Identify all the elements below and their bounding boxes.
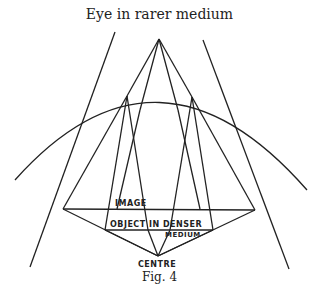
image-label: IMAGE <box>115 199 147 208</box>
medium-label: MEDIUM <box>165 231 201 239</box>
figure-caption: Fig. 4 <box>0 270 319 284</box>
object-label: OBJECT IN DENSER <box>110 220 202 229</box>
diagram: Eye in rarer medium <box>0 0 319 297</box>
centre-label: CENTRE <box>138 260 176 269</box>
refraction-diagram <box>0 0 319 297</box>
refracting-surface <box>15 102 307 190</box>
